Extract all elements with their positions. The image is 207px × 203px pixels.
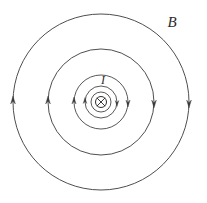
magnetic-field-figure: B I xyxy=(0,0,207,203)
field-diagram-svg: B I xyxy=(0,0,207,203)
field-label-b: B xyxy=(167,14,176,30)
current-into-page-icon xyxy=(96,97,107,108)
